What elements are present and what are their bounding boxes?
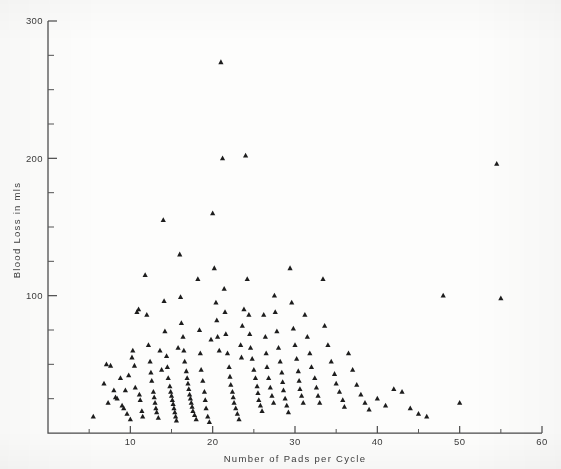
data-point-marker [367, 407, 372, 412]
data-point-marker [139, 408, 144, 413]
data-point-marker [151, 389, 156, 394]
data-point-marker [342, 404, 347, 409]
data-point-marker [165, 364, 170, 369]
data-point-marker [200, 378, 205, 383]
data-point-marker [215, 334, 220, 339]
data-point-marker [268, 385, 273, 390]
data-point-marker [182, 359, 187, 364]
data-point-marker [180, 334, 185, 339]
data-point-marker [228, 382, 233, 387]
data-point-marker [199, 367, 204, 372]
data-point-marker [195, 276, 200, 281]
data-point-marker [149, 378, 154, 383]
data-point-marker [284, 403, 289, 408]
data-point-marker [133, 385, 138, 390]
data-point-marker [214, 318, 219, 323]
data-point-marker [144, 312, 149, 317]
data-point-marker [146, 342, 151, 347]
data-point-marker [264, 364, 269, 369]
data-point-marker [91, 414, 96, 419]
data-point-marker [129, 355, 134, 360]
data-point-marker [457, 400, 462, 405]
data-point-marker [297, 386, 302, 391]
data-point-marker [241, 307, 246, 312]
data-point-marker [132, 363, 137, 368]
data-point-marker [111, 388, 116, 393]
data-point-marker [186, 386, 191, 391]
data-point-marker [302, 312, 307, 317]
data-point-marker [278, 359, 283, 364]
data-point-marker [279, 370, 284, 375]
data-point-marker [247, 331, 252, 336]
data-point-marker [273, 309, 278, 314]
data-point-marker [175, 345, 180, 350]
data-point-marker [217, 348, 222, 353]
data-point-marker [161, 298, 166, 303]
data-point-marker [203, 397, 208, 402]
data-point-marker [213, 300, 218, 305]
data-point-marker [152, 394, 157, 399]
data-point-marker [494, 161, 499, 166]
data-point-marker [231, 394, 236, 399]
data-point-marker [243, 153, 248, 158]
x-tick-label: 50 [454, 436, 465, 447]
data-point-marker [130, 348, 135, 353]
data-point-marker [283, 396, 288, 401]
data-point-marker [137, 392, 142, 397]
data-point-marker [408, 405, 413, 410]
axis-lines [48, 21, 542, 433]
data-point-marker [166, 375, 171, 380]
data-point-marker [272, 293, 277, 298]
data-marker-group [91, 59, 504, 424]
y-axis-label: Blood Loss in mls [11, 182, 22, 279]
data-point-marker [171, 401, 176, 406]
x-axis-label: Number of Pads per Cycle [224, 453, 367, 464]
data-point-marker [178, 294, 183, 299]
data-point-marker [202, 389, 207, 394]
data-point-marker [276, 345, 281, 350]
data-point-marker [194, 416, 199, 421]
data-point-marker [218, 59, 223, 64]
data-point-marker [299, 393, 304, 398]
data-point-marker [123, 388, 128, 393]
data-point-marker [289, 300, 294, 305]
data-point-marker [250, 356, 255, 361]
data-point-marker [292, 342, 297, 347]
data-point-marker [240, 323, 245, 328]
data-point-marker [309, 364, 314, 369]
data-point-marker [312, 375, 317, 380]
data-point-marker [189, 404, 194, 409]
data-point-marker [263, 334, 268, 339]
data-point-marker [346, 350, 351, 355]
data-point-marker [106, 400, 111, 405]
data-point-marker [340, 397, 345, 402]
data-point-marker [258, 403, 263, 408]
data-point-marker [271, 400, 276, 405]
data-point-marker [152, 400, 157, 405]
data-point-marker [187, 392, 192, 397]
data-point-marker [354, 382, 359, 387]
data-point-marker [255, 390, 260, 395]
data-point-marker [255, 383, 260, 388]
data-point-marker [161, 217, 166, 222]
data-point-marker [294, 356, 299, 361]
data-point-marker [198, 350, 203, 355]
data-point-marker [164, 353, 169, 358]
data-point-marker [101, 381, 106, 386]
data-point-marker [189, 400, 194, 405]
data-point-marker [325, 342, 330, 347]
data-point-marker [246, 312, 251, 317]
data-point-marker [128, 416, 133, 421]
data-point-marker [222, 286, 227, 291]
x-tick-label: 20 [207, 436, 218, 447]
tick-group [48, 21, 542, 433]
plot-canvas: 100200300102030405060 Number of Pads per… [0, 0, 561, 469]
data-point-marker [280, 379, 285, 384]
data-point-marker [208, 337, 213, 342]
data-point-marker [108, 363, 113, 368]
data-point-marker [168, 389, 173, 394]
data-point-marker [291, 326, 296, 331]
data-point-marker [181, 348, 186, 353]
y-tick-label: 200 [26, 153, 43, 164]
data-point-marker [227, 364, 232, 369]
